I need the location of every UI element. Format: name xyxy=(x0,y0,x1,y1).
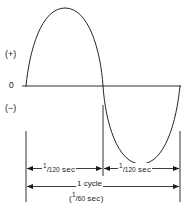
fraction-denominator: 60 xyxy=(78,195,85,202)
full-cycle-duration-label: (1/60 sec) xyxy=(68,192,105,203)
negative-axis-label: (−) xyxy=(5,104,16,113)
half-cycle-right-unit: sec xyxy=(138,165,151,174)
fraction-denominator: 120 xyxy=(49,166,60,173)
positive-axis-label: (+) xyxy=(5,50,16,59)
zero-axis-label: 0 xyxy=(9,81,14,90)
fraction-one-over-onetwenty-right: 1/120 xyxy=(119,163,136,174)
fraction-denominator: 120 xyxy=(125,166,136,173)
half-cycle-right-label: 1/120 sec xyxy=(118,163,152,174)
paren-close: ) xyxy=(101,194,104,203)
fraction-one-over-onetwenty-left: 1/120 xyxy=(43,163,60,174)
figure-container: (+) 0 (−) 1/120 sec 1/120 sec 1 cycle (1… xyxy=(0,0,190,210)
full-cycle-label: 1 cycle xyxy=(76,180,103,188)
fraction-one-over-sixty: 1/60 xyxy=(72,192,85,203)
half-cycle-left-unit: sec xyxy=(62,165,75,174)
full-cycle-unit: sec xyxy=(87,194,100,203)
half-cycle-left-label: 1/120 sec xyxy=(42,163,76,174)
